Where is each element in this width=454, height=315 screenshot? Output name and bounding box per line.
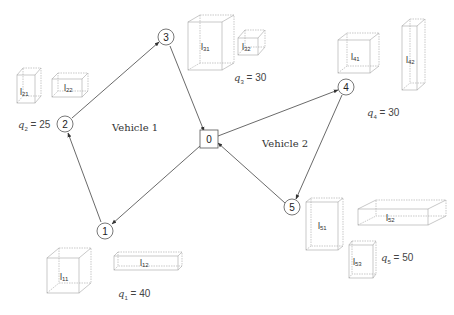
edge-0-4 — [218, 90, 338, 136]
svg-text:2: 2 — [62, 119, 68, 130]
svg-text:l42: l42 — [406, 55, 415, 65]
customer-node-4: 4 — [338, 79, 354, 95]
customer-node-1: 1 — [97, 223, 113, 239]
item-labels: l21 l22 l31 l32 l41 l42 l11 l12 l51 l52 … — [20, 42, 415, 282]
svg-text:l32: l32 — [242, 42, 251, 52]
svg-text:l53: l53 — [353, 257, 362, 267]
svg-text:l11: l11 — [60, 272, 69, 282]
demand-label-q1: q1 = 40 — [118, 288, 150, 301]
svg-text:l52: l52 — [386, 213, 395, 223]
depot-label: 0 — [206, 134, 212, 145]
demand-label-q5: q5 = 50 — [381, 252, 413, 265]
item-box-l52 — [358, 200, 446, 225]
customer-node-5: 5 — [284, 199, 300, 215]
edge-2-3 — [72, 42, 159, 118]
item-box-l21 — [17, 68, 41, 103]
demand-label-q2: q2 = 25 — [18, 119, 50, 132]
item-box-l51 — [306, 198, 343, 250]
svg-text:l12: l12 — [140, 258, 149, 268]
depot-node: 0 — [200, 130, 218, 148]
edge-3-0 — [170, 46, 204, 131]
demand-label-q4: q4 = 30 — [367, 107, 399, 120]
demand-label-q3: q3 = 30 — [234, 72, 266, 85]
customer-node-2: 2 — [57, 116, 73, 132]
svg-text:l22: l22 — [64, 83, 73, 93]
item-box-l11 — [47, 248, 91, 293]
svg-text:1: 1 — [102, 226, 108, 237]
routing-diagram: 0 1 2 3 4 5 — [0, 0, 454, 315]
edge-1-2 — [68, 133, 101, 222]
edge-0-1 — [112, 146, 200, 224]
svg-text:l51: l51 — [318, 221, 327, 231]
edge-5-0 — [218, 143, 285, 203]
svg-text:4: 4 — [343, 82, 349, 93]
svg-text:l31: l31 — [201, 42, 210, 52]
vehicle-1-label: Vehicle 1 — [112, 122, 158, 133]
item-box-l41 — [338, 33, 379, 73]
svg-text:l21: l21 — [20, 87, 29, 97]
item-box-l31 — [188, 15, 234, 70]
vehicle-2-label: Vehicle 2 — [262, 138, 308, 149]
svg-text:l41: l41 — [351, 52, 360, 62]
svg-text:5: 5 — [289, 202, 295, 213]
svg-text:3: 3 — [163, 32, 169, 43]
customer-node-3: 3 — [158, 29, 174, 45]
item-box-l22 — [52, 73, 88, 97]
